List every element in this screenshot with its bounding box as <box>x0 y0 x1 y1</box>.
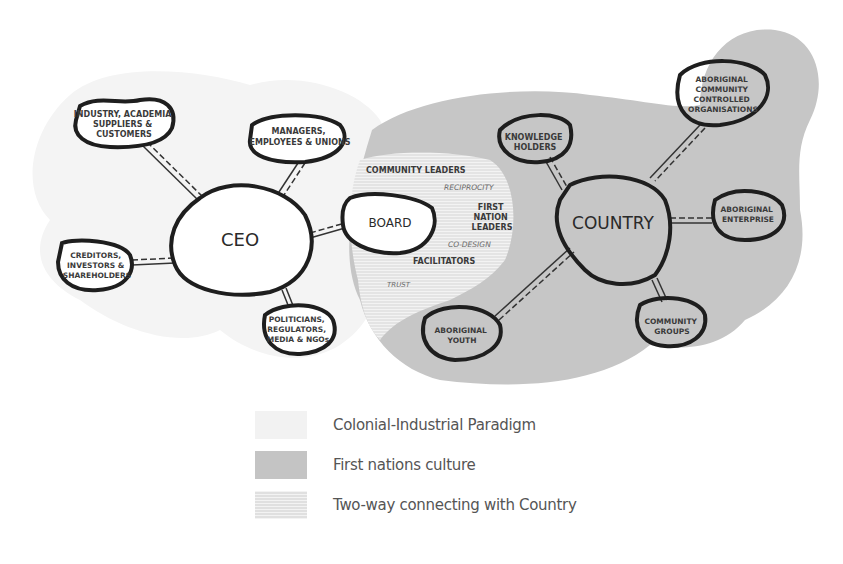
first-nations-swatch <box>255 451 307 479</box>
legend: Colonial-Industrial Paradigm First natio… <box>255 405 577 525</box>
creditors-investors-label: CREDITORS, INVESTORS & SHAREHOLDERS <box>63 251 131 280</box>
facilitators-label: FACILITATORS <box>413 257 475 266</box>
legend-label: Colonial-Industrial Paradigm <box>333 416 536 434</box>
politicians-regulators-label: POLITICIANS, REGULATORS, MEDIA & NGOs <box>267 315 330 344</box>
legend-label: Two-way connecting with Country <box>333 496 577 514</box>
reciprocity-label: RECIPROCITY <box>444 183 495 192</box>
co-design-label: CO-DESIGN <box>448 240 491 249</box>
community-leaders-label: COMMUNITY LEADERS <box>366 166 466 175</box>
aboriginal-enterprise-label: ABORIGINAL ENTERPRISE <box>721 205 776 224</box>
aboriginal-community-orgs-label: ABORIGINAL COMMUNITY CONTROLLED ORGANISA… <box>688 75 758 114</box>
ceo-label: CEO <box>221 229 259 250</box>
board-label: BOARD <box>368 216 411 230</box>
colonial-swatch <box>255 411 307 439</box>
knowledge-holders-label: KNOWLEDGE HOLDERS <box>505 133 566 152</box>
legend-item-first-nations: First nations culture <box>255 445 577 485</box>
country-label: COUNTRY <box>572 213 655 233</box>
legend-item-two-way: Two-way connecting with Country <box>255 485 577 525</box>
trust-label: TRUST <box>387 281 411 289</box>
two-way-swatch <box>255 491 307 519</box>
legend-item-colonial: Colonial-Industrial Paradigm <box>255 405 577 445</box>
legend-label: First nations culture <box>333 456 475 474</box>
